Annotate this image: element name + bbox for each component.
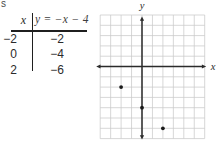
x-axis-label: x <box>210 61 216 72</box>
data-point <box>140 106 144 110</box>
worksheet-page: s x y = −x − 4 −2 −2 0 −4 2 −6 xy <box>0 0 216 144</box>
coordinate-graph: xy <box>0 0 216 144</box>
x-axis-arrowhead <box>96 64 100 68</box>
x-axis-arrowhead <box>202 64 206 68</box>
data-point <box>161 126 165 130</box>
y-axis-label: y <box>139 0 145 11</box>
data-point <box>119 85 123 89</box>
grid-lines <box>100 15 205 139</box>
axes <box>96 17 206 140</box>
y-axis-arrowhead <box>140 17 144 21</box>
